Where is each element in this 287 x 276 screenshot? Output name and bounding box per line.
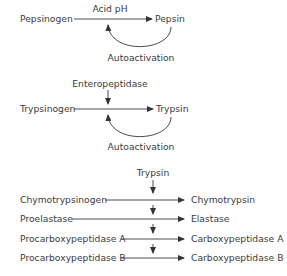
elastase-label: Elastase [191,213,230,224]
acid-ph-label: Acid pH [92,3,127,14]
procarboxypeptidase-b-label: Procarboxypeptidase B [20,252,126,263]
trypsin-activator-label: Trypsin [136,167,170,178]
trypsin-autoactivation-arrow [108,115,171,137]
trypsin-activated-pathways: Trypsin Chymotrypsinogen Chymotrypsin Pr… [20,167,284,263]
pepsin-autoactivation-label: Autoactivation [108,52,175,63]
proelastase-label: Proelastase [20,213,73,224]
trypsin-label: Trypsin [155,103,189,114]
pepsin-label: Pepsin [155,13,185,24]
chymotrypsinogen-label: Chymotrypsinogen [20,194,107,205]
enteropeptidase-label: Enteropeptidase [72,78,148,89]
carboxypeptidase-b-label: Carboxypeptidase B [191,252,283,263]
procarboxypeptidase-a-label: Procarboxypeptidase A [20,233,126,244]
pepsinogen-label: Pepsinogen [20,13,73,24]
trypsin-autoactivation-label: Autoactivation [108,141,175,152]
zymogen-activation-diagram: Pepsinogen Acid pH Pepsin Autoactivation… [0,0,287,276]
carboxypeptidase-a-label: Carboxypeptidase A [191,233,284,244]
trypsinogen-label: Trypsinogen [19,103,76,114]
pepsin-pathway: Pepsinogen Acid pH Pepsin Autoactivation [20,3,185,63]
pepsin-autoactivation-arrow [108,25,171,47]
trypsin-pathway: Enteropeptidase Trypsinogen Trypsin Auto… [19,78,189,152]
chymotrypsin-label: Chymotrypsin [191,194,255,205]
